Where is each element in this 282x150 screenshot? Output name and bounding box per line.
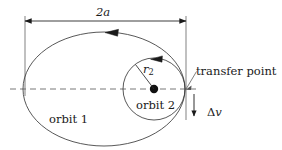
label-delta-v: Δv [207,105,222,119]
label-radius-r2: r2 [143,62,154,77]
orbit-1-direction-arrow-icon [105,29,119,36]
label-radius-r2-subscript: 2 [149,67,154,77]
label-transfer-point: transfer point [196,64,277,78]
orbital-transfer-diagram: 2a r2 transfer point orbit 1 orbit 2 Δv [0,0,282,150]
label-delta-v-variable: v [215,105,222,119]
label-orbit-2: orbit 2 [136,98,175,112]
label-semi-major-axis: 2a [96,5,110,19]
label-orbit-1: orbit 1 [49,112,88,126]
